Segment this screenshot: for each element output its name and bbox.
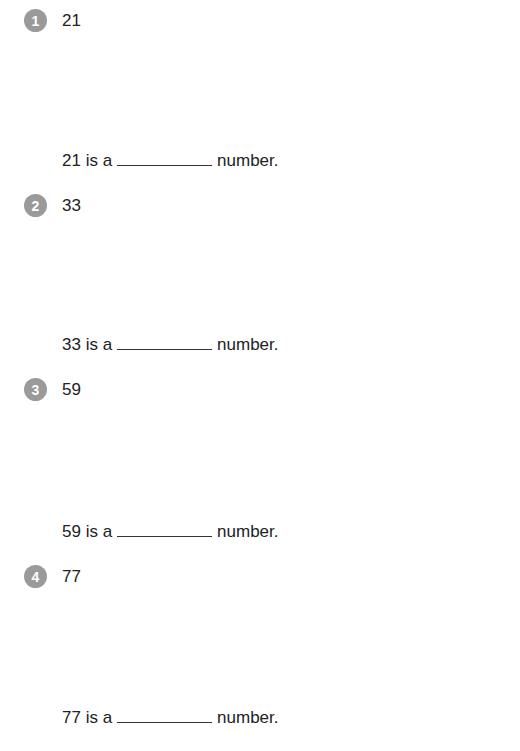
sentence-suffix: number. — [217, 335, 278, 355]
answer-blank[interactable] — [117, 721, 212, 723]
problem-number-badge: 4 — [24, 565, 47, 588]
fill-in-sentence: 77 is a number. — [62, 708, 279, 728]
fill-in-sentence: 33 is a number. — [62, 335, 279, 355]
sentence-suffix: number. — [217, 708, 278, 728]
sentence-prefix: 33 is a — [62, 335, 112, 355]
sentence-prefix: 59 is a — [62, 522, 112, 542]
problem-value: 21 — [62, 11, 81, 31]
problem-value: 59 — [62, 380, 81, 400]
answer-blank[interactable] — [117, 348, 212, 350]
answer-blank[interactable] — [117, 535, 212, 537]
problem-number-badge: 2 — [24, 194, 47, 217]
fill-in-sentence: 59 is a number. — [62, 522, 279, 542]
fill-in-sentence: 21 is a number. — [62, 151, 279, 171]
sentence-suffix: number. — [217, 522, 278, 542]
answer-blank[interactable] — [117, 164, 212, 166]
sentence-prefix: 21 is a — [62, 151, 112, 171]
problem-value: 77 — [62, 567, 81, 587]
sentence-suffix: number. — [217, 151, 278, 171]
sentence-prefix: 77 is a — [62, 708, 112, 728]
problem-number-badge: 1 — [24, 9, 47, 32]
problem-value: 33 — [62, 196, 81, 216]
problem-number-badge: 3 — [24, 378, 47, 401]
